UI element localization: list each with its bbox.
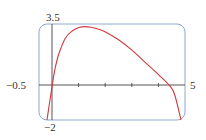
x-max-label: 5 xyxy=(190,80,196,91)
x-min-label: −0.5 xyxy=(6,80,26,91)
y-max-label: 3.5 xyxy=(46,12,60,23)
function-curve xyxy=(47,27,181,120)
chart-canvas xyxy=(0,0,206,140)
viewing-rectangle xyxy=(39,24,185,120)
y-min-label: −2 xyxy=(44,122,56,133)
